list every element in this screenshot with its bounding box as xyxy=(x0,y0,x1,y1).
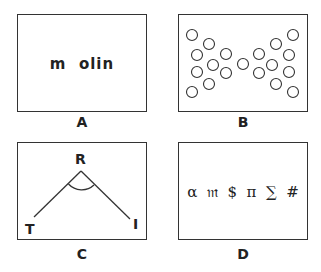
panel-d-symbols: α 𝔪 $ π ∑ # xyxy=(179,183,307,201)
panel-d-caption: D xyxy=(223,246,263,262)
panel-c-caption: C xyxy=(62,246,102,262)
panel-d: α 𝔪 $ π ∑ # xyxy=(178,142,308,240)
